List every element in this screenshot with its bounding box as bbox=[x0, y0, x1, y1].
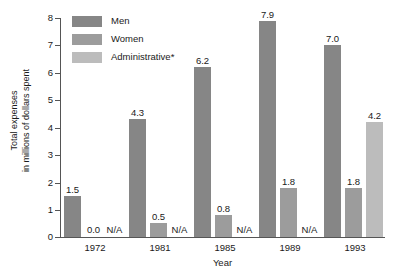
bar-women-1981[interactable] bbox=[150, 223, 167, 237]
y-tick-5 bbox=[55, 100, 60, 101]
y-tick-label-3: 3 bbox=[33, 150, 53, 160]
y-tick-label-0: 0 bbox=[33, 232, 53, 242]
legend-item-men[interactable]: Men bbox=[72, 13, 174, 29]
bar-group-1993: 7.0 1.8 4.2 bbox=[324, 18, 386, 237]
bar-label-women-1989: 1.8 bbox=[282, 177, 295, 187]
bar-label-admin-1981: N/A bbox=[172, 225, 188, 235]
bar-men-1981[interactable] bbox=[129, 119, 146, 237]
y-tick-7 bbox=[55, 45, 60, 46]
bar-men-1989[interactable] bbox=[259, 21, 276, 237]
x-axis-title: Year bbox=[60, 258, 385, 268]
bar-label-women-1985: 0.8 bbox=[217, 204, 230, 214]
bar-slot-admin-1993[interactable]: 4.2 bbox=[366, 18, 383, 237]
legend-item-women[interactable]: Women bbox=[72, 31, 174, 47]
legend-item-administrative[interactable]: Administrative* bbox=[72, 49, 174, 65]
bar-group-1985: 6.2 0.8 N/A bbox=[194, 18, 256, 237]
y-tick-label-4: 4 bbox=[33, 123, 53, 133]
bar-slot-men-1989[interactable]: 7.9 bbox=[259, 18, 276, 237]
bar-chart: Total expenses in millions of dollars sp… bbox=[0, 0, 393, 276]
bar-label-men-1989: 7.9 bbox=[261, 10, 274, 20]
x-tick-label-1985: 1985 bbox=[194, 243, 256, 253]
x-tick-label-1981: 1981 bbox=[129, 243, 191, 253]
legend-swatch-administrative-icon bbox=[72, 52, 102, 63]
x-axis-line bbox=[60, 237, 385, 238]
y-tick-label-8: 8 bbox=[33, 13, 53, 23]
y-tick-1 bbox=[55, 210, 60, 211]
y-tick-0 bbox=[55, 237, 60, 238]
y-tick-3 bbox=[55, 155, 60, 156]
bar-slot-admin-1985[interactable]: N/A bbox=[236, 18, 253, 237]
bar-women-1993[interactable] bbox=[345, 188, 362, 237]
bar-label-men-1981: 4.3 bbox=[131, 108, 144, 118]
y-axis-title: Total expenses in millions of dollars sp… bbox=[2, 0, 40, 240]
bar-label-admin-1972: N/A bbox=[107, 225, 123, 235]
bar-label-women-1993: 1.8 bbox=[347, 177, 360, 187]
x-tick-label-1993: 1993 bbox=[324, 243, 386, 253]
y-tick-6 bbox=[55, 73, 60, 74]
bar-label-men-1985: 6.2 bbox=[196, 56, 209, 66]
y-axis-title-line2: in millions of dollars spent bbox=[21, 68, 33, 171]
bar-slot-men-1993[interactable]: 7.0 bbox=[324, 18, 341, 237]
bar-label-admin-1985: N/A bbox=[237, 225, 253, 235]
bar-label-men-1993: 7.0 bbox=[326, 34, 339, 44]
bar-slot-admin-1989[interactable]: N/A bbox=[301, 18, 318, 237]
bar-label-women-1981: 0.5 bbox=[152, 212, 165, 222]
bar-label-admin-1989: N/A bbox=[302, 225, 318, 235]
y-axis-title-line1: Total expenses bbox=[10, 68, 22, 171]
y-tick-label-7: 7 bbox=[33, 40, 53, 50]
legend-label-men: Men bbox=[111, 16, 129, 26]
bar-admin-1993[interactable] bbox=[366, 122, 383, 237]
y-tick-label-6: 6 bbox=[33, 68, 53, 78]
bar-women-1989[interactable] bbox=[280, 188, 297, 237]
legend-label-women: Women bbox=[111, 34, 144, 44]
bar-men-1993[interactable] bbox=[324, 45, 341, 237]
bar-group-1989: 7.9 1.8 N/A bbox=[259, 18, 321, 237]
legend-swatch-men-icon bbox=[72, 16, 102, 27]
bar-label-men-1972: 1.5 bbox=[66, 185, 79, 195]
bar-slot-women-1993[interactable]: 1.8 bbox=[345, 18, 362, 237]
legend-label-administrative: Administrative* bbox=[111, 52, 174, 62]
legend-swatch-women-icon bbox=[72, 34, 102, 45]
legend: Men Women Administrative* bbox=[72, 13, 174, 67]
y-tick-2 bbox=[55, 183, 60, 184]
x-tick-label-1972: 1972 bbox=[64, 243, 126, 253]
bar-men-1972[interactable] bbox=[64, 196, 81, 237]
y-tick-4 bbox=[55, 128, 60, 129]
bar-label-women-1972: 0.0 bbox=[87, 225, 100, 235]
bar-slot-women-1985[interactable]: 0.8 bbox=[215, 18, 232, 237]
y-tick-label-5: 5 bbox=[33, 95, 53, 105]
bar-label-admin-1993: 4.2 bbox=[368, 111, 381, 121]
bar-men-1985[interactable] bbox=[194, 67, 211, 237]
bar-slot-men-1985[interactable]: 6.2 bbox=[194, 18, 211, 237]
y-tick-label-2: 2 bbox=[33, 178, 53, 188]
x-tick-label-1989: 1989 bbox=[259, 243, 321, 253]
y-tick-label-1: 1 bbox=[33, 205, 53, 215]
bar-slot-women-1989[interactable]: 1.8 bbox=[280, 18, 297, 237]
bar-women-1985[interactable] bbox=[215, 215, 232, 237]
y-tick-8 bbox=[55, 18, 60, 19]
